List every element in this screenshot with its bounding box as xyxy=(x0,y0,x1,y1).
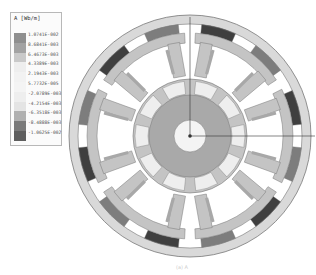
rotor-slot xyxy=(135,125,149,148)
figure-caption: (a) A xyxy=(176,264,188,270)
motor-cross-section-diagram xyxy=(0,0,316,275)
center-point xyxy=(188,134,192,138)
